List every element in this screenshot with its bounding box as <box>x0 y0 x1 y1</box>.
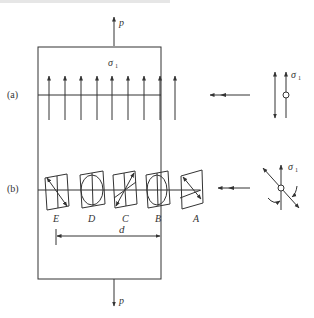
dimension-d <box>56 229 160 245</box>
element-label-E: E <box>52 213 59 224</box>
load-label-top: p <box>118 17 124 28</box>
svg-text:σ: σ <box>288 161 294 172</box>
svg-text:1: 1 <box>115 63 118 69</box>
svg-text:1: 1 <box>295 167 298 173</box>
load-label-bottom: p <box>118 295 124 306</box>
element-a-stress: σ 1 <box>275 69 301 118</box>
element-b-rotated-stress: σ 1 <box>263 161 299 210</box>
stress-diagram: p (a) σ 1 σ 1 (b) E <box>0 0 314 318</box>
dimension-label-d: d <box>119 223 125 235</box>
svg-text:σ: σ <box>291 69 297 80</box>
svg-text:σ: σ <box>108 57 114 68</box>
element-E <box>45 174 69 210</box>
direction-arrow-b <box>218 186 250 190</box>
cropped-caption-fragment <box>0 0 170 3</box>
row-a-label: (a) <box>7 89 18 101</box>
element-label-B: B <box>155 213 161 224</box>
uniform-stress-arrows <box>49 76 175 120</box>
svg-text:1: 1 <box>298 75 301 81</box>
direction-arrow-a <box>210 93 250 97</box>
row-b-label: (b) <box>7 183 19 195</box>
element-label-A: A <box>192 213 200 224</box>
sigma-label-a: σ 1 <box>108 57 118 69</box>
element-label-D: D <box>87 213 96 224</box>
